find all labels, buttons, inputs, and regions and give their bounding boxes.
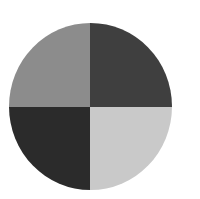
quadrant-bottom-right xyxy=(90,107,172,190)
quadrant-bottom-left xyxy=(9,107,90,190)
quadrant-disc xyxy=(9,23,172,190)
quadrant-top-right xyxy=(90,23,172,107)
quadrant-top-left xyxy=(9,23,90,107)
